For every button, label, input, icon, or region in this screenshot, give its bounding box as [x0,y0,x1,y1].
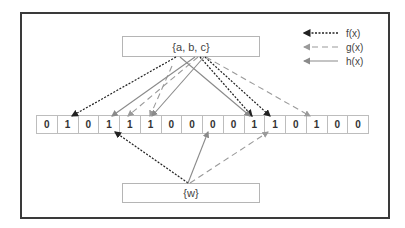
arrows-from-query [115,132,268,183]
h-arrows-from-set [112,57,250,116]
dashed-arrow-icon [300,42,340,52]
solid-arrow-icon [300,56,340,66]
legend-item-g: g(x) [300,40,380,54]
legend-item-f: f(x) [300,26,380,40]
dotted-arrow-icon [300,28,340,38]
g-arrows-from-set [128,57,310,116]
legend-item-h: h(x) [300,54,380,68]
legend: f(x) g(x) h(x) [300,26,380,68]
